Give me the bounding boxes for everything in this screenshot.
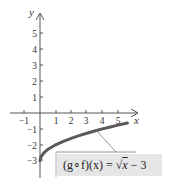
formula-left: (g∘f)(x) = — [63, 158, 116, 172]
y-tick-label: 2 — [32, 77, 37, 87]
y-tick-label: −2 — [27, 141, 37, 151]
formula-right: − 3 — [128, 158, 147, 172]
x-tick-label: 3 — [84, 116, 89, 126]
x-tick-label: 2 — [69, 116, 74, 126]
x-tick-label: 4 — [100, 116, 105, 126]
y-tick-label: −3 — [27, 156, 37, 166]
formula-label: (g∘f)(x) = √x − 3 — [57, 154, 162, 176]
x-axis-label: x — [133, 114, 139, 126]
y-axis-label: y — [28, 6, 34, 18]
y-tick-label: 5 — [32, 29, 37, 39]
callout-line — [96, 130, 116, 152]
y-tick-label: −1 — [27, 125, 37, 135]
y-tick-label: 3 — [32, 61, 37, 71]
y-tick-label: 1 — [32, 93, 37, 103]
y-tick-label: 4 — [32, 45, 37, 55]
y-ticks: 54321−1−2−3 — [27, 29, 43, 166]
x-tick-label: 1 — [54, 116, 59, 126]
